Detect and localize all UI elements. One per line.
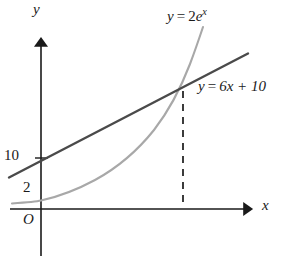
x-axis-label: x xyxy=(262,198,269,213)
math-figure: y = 2ex y = 6x + 10 y x O 10 2 xyxy=(0,0,305,260)
line-label-lhs: y xyxy=(198,78,205,94)
line-label-eq: = xyxy=(208,78,216,94)
line-equation-label: y = 6x + 10 xyxy=(198,79,266,94)
plot-canvas xyxy=(0,0,305,260)
curve-label-eq: = xyxy=(177,8,185,24)
curve-label-exponent: x xyxy=(202,6,207,17)
straight-line xyxy=(9,54,248,178)
y-tick-label-10: 10 xyxy=(4,148,19,163)
curve-label-lhs: y xyxy=(167,8,174,24)
curve-label-coef: 2 xyxy=(188,8,196,24)
y-tick-label-2: 2 xyxy=(23,180,31,195)
y-axis-label: y xyxy=(33,2,40,17)
curve-equation-label: y = 2ex xyxy=(167,7,207,24)
origin-label: O xyxy=(23,212,34,227)
line-label-rhs: 6x + 10 xyxy=(219,78,266,94)
